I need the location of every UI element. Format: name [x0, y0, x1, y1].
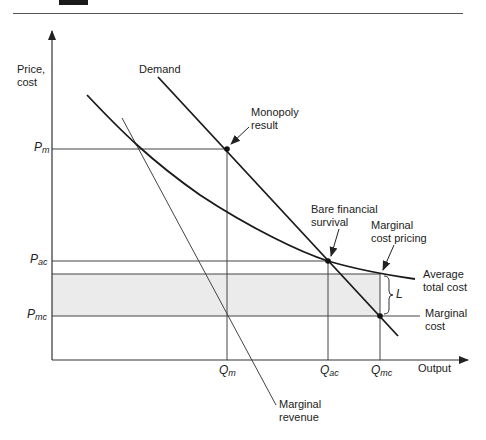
tick-pmc: Pmc	[27, 308, 47, 324]
mc-label-line2: cost	[425, 320, 467, 333]
y-axis-label-line2: cost	[17, 76, 45, 89]
mr-label-line1: Marginal	[279, 398, 321, 411]
bare-survival-label: Bare financial survival	[311, 203, 378, 229]
y-axis-label: Price, cost	[17, 63, 45, 89]
loss-brace	[384, 276, 393, 314]
mr-label: Marginal revenue	[279, 398, 321, 424]
bare-label-line1: Bare financial	[311, 203, 378, 216]
mc-pricing-label: Marginal cost pricing	[371, 219, 427, 245]
tick-qmc: Qmc	[371, 364, 392, 380]
tick-qm: Qm	[219, 364, 236, 380]
mc-label: Marginal cost	[425, 307, 467, 333]
atc-label: Average total cost	[423, 268, 467, 294]
bare-survival-pointer	[331, 229, 339, 256]
monopoly-label-line1: Monopoly	[251, 106, 299, 119]
bare-label-line2: survival	[311, 216, 378, 229]
monopoly-result-point	[224, 146, 230, 152]
mr-label-line2: revenue	[279, 411, 321, 424]
marginal-cost-point	[377, 313, 383, 319]
loss-label: L	[396, 288, 403, 301]
mc-label-line1: Marginal	[425, 307, 467, 320]
x-axis-label: Output	[418, 362, 451, 375]
tick-qac: Qac	[320, 364, 339, 380]
bare-survival-point	[325, 258, 331, 264]
mcpricing-label-line1: Marginal	[371, 219, 427, 232]
mc-pricing-pointer	[383, 245, 394, 270]
atc-label-line1: Average	[423, 268, 467, 281]
atc-label-line2: total cost	[423, 281, 467, 294]
mcpricing-label-line2: cost pricing	[371, 232, 427, 245]
tick-pac: Pac	[30, 253, 48, 269]
loss-region	[52, 274, 380, 316]
monopoly-label-line2: result	[251, 119, 299, 132]
monopoly-result-label: Monopoly result	[251, 106, 299, 132]
y-axis-label-line1: Price,	[17, 63, 45, 76]
monopoly-pointer	[231, 127, 249, 144]
demand-label: Demand	[139, 63, 181, 76]
tick-pm: Pm	[34, 141, 50, 157]
